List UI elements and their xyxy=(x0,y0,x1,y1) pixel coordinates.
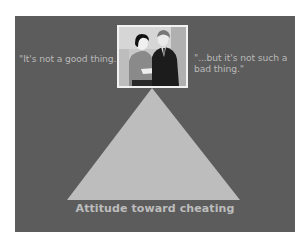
business-people-illustration xyxy=(119,27,186,86)
quote-right: "...but it's not such a bad thing." xyxy=(194,52,294,74)
triangle-caption: Attitude toward cheating xyxy=(15,202,295,215)
quote-left: "It's not a good thing..." xyxy=(19,53,126,64)
slide: "It's not a good thing..." "...but it's … xyxy=(15,16,295,232)
photo-two-people xyxy=(117,25,188,88)
